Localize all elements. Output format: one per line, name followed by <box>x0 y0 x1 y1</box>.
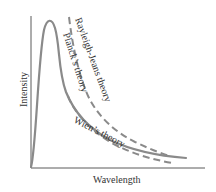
wien-label: Wien’s theory <box>72 114 127 149</box>
blackbody-chart: Rayleigh-Jeans theory Planck’s theory Wi… <box>0 0 216 192</box>
y-axis-label: Intensity <box>18 72 29 107</box>
x-axis-label: Wavelength <box>93 174 141 185</box>
